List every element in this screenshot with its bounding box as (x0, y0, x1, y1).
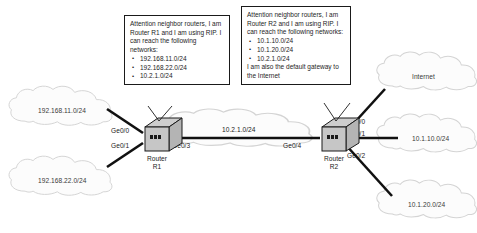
callout-r2-intro: Attention neighbor routers, I am Router … (247, 11, 345, 37)
callout-r2-network-item: 10.1.10.0/24 (247, 37, 345, 46)
callout-r2-outro: I am also the default gateway to the Int… (247, 63, 345, 80)
callout-r1-network-item: 192.168.22.0/24 (130, 64, 224, 73)
link-r2-to-10-1-20 (345, 144, 392, 196)
callout-r2-network-list: 10.1.10.0/24 10.1.20.0/24 10.2.1.0/24 (247, 37, 345, 63)
router-r2-icon (322, 118, 359, 151)
callout-r2-network-item: 10.1.20.0/24 (247, 46, 345, 55)
link-r1-to-192-168-22 (107, 143, 143, 167)
callout-r2-network-item: 10.2.1.0/24 (247, 55, 345, 64)
callout-r1-network-item: 192.168.11.0/24 (130, 55, 224, 64)
diagram-canvas: Attention neighbor routers, I am Router … (0, 0, 477, 233)
callout-r1-network-item: 10.2.1.0/24 (130, 72, 224, 81)
callout-router-r2: Attention neighbor routers, I am Router … (241, 6, 351, 85)
link-r1-to-192-168-11 (107, 109, 143, 133)
router-r1-icon (145, 118, 182, 151)
link-layer (0, 0, 477, 233)
callout-r1-intro: Attention neighbor routers, I am Router … (130, 20, 224, 55)
network-diagram: Attention neighbor routers, I am Router … (0, 0, 477, 233)
callout-router-r1: Attention neighbor routers, I am Router … (124, 15, 230, 85)
callout-r1-network-list: 192.168.11.0/24 192.168.22.0/24 10.2.1.0… (130, 55, 224, 81)
